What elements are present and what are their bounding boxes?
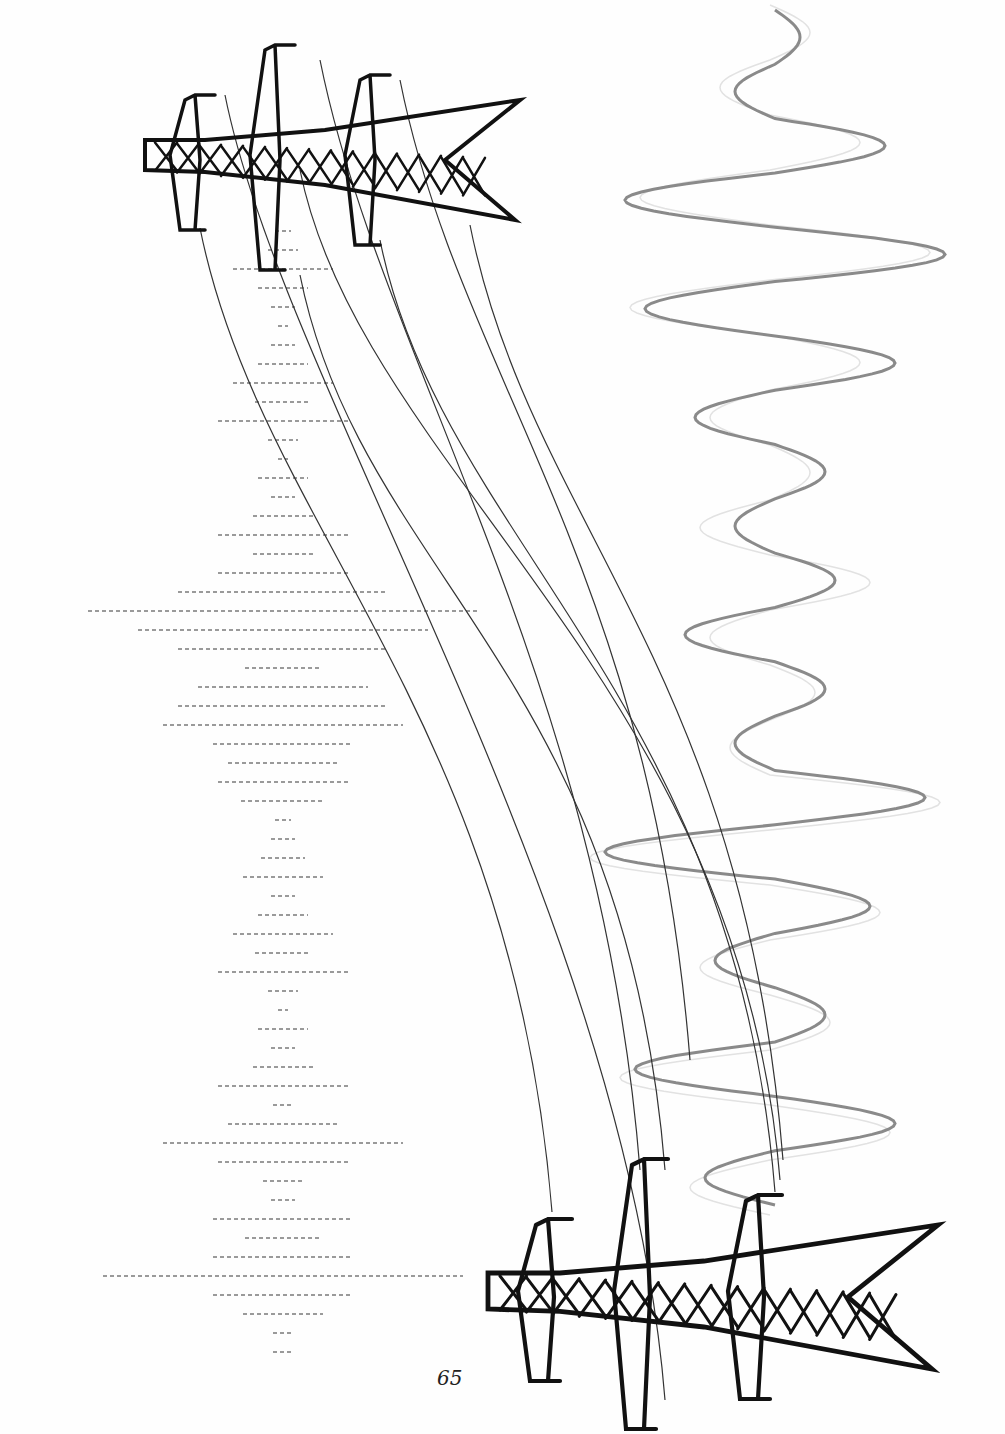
illustration-page: 65 bbox=[0, 0, 1005, 1434]
main-wave bbox=[605, 10, 945, 1205]
pylon-artwork bbox=[0, 0, 1005, 1434]
dash-rows bbox=[88, 231, 478, 1352]
bottom-tower bbox=[488, 1159, 938, 1429]
page-number: 65 bbox=[437, 1366, 462, 1390]
